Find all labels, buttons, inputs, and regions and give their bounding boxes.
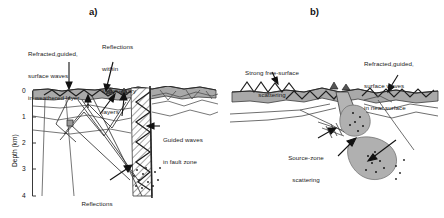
panel-a-id: a) <box>89 6 97 17</box>
guided-waves-line1: Guided waves <box>163 136 203 143</box>
source-zone-scattering-label: Source-zone scattering <box>270 140 342 198</box>
depth-tick-4: 4 <box>22 192 26 199</box>
source-box-marker <box>67 120 73 126</box>
deep-crust-reflections-label: Reflections from deep crust <box>54 186 140 218</box>
sedimentary-reflections-line2: within <box>102 65 136 72</box>
near-surface-waves-line3: in near surface <box>364 104 414 111</box>
weathered-layer-label-line3: in weathered layer <box>28 94 79 101</box>
weathered-layer-label-line1: Refracted,guided, <box>28 50 79 57</box>
panel-b-id: b) <box>310 6 319 17</box>
free-surface-scattering-line1: Strong free-surface <box>230 69 314 76</box>
sedimentary-reflections-line4: layers <box>102 108 136 115</box>
depth-tick-0: 0 <box>22 87 26 94</box>
sedimentary-reflections-line3: sedimentary <box>102 87 136 94</box>
near-surface-waves-label: Refracted,guided, surface waves in near … <box>364 46 414 125</box>
receiver-triangles-b <box>330 82 350 90</box>
depth-tick-3: 3 <box>22 165 26 172</box>
weathered-layer-label-line2: surface waves <box>28 72 79 79</box>
guided-waves-label: Guided waves in fault zone <box>163 122 203 180</box>
source-zone-scattering-line1: Source-zone <box>270 154 342 161</box>
depth-tick-2: 2 <box>22 139 26 146</box>
source-zone-scattering-line2: scattering <box>270 176 342 183</box>
near-surface-waves-line1: Refracted,guided, <box>364 60 414 67</box>
near-surface-waves-line2: surface waves <box>364 82 414 89</box>
depth-tick-1: 1 <box>22 113 26 120</box>
free-surface-scattering-label: Strong free-surface scattering <box>230 55 314 113</box>
sedimentary-reflections-label: Reflections within sedimentary layers <box>102 29 136 130</box>
weathered-layer-label: Refracted,guided, surface waves in weath… <box>28 36 79 115</box>
deep-crust-reflections-line1: Reflections <box>54 200 140 207</box>
figure-canvas: a) b) Refracted,guided, surface waves in… <box>0 0 444 218</box>
sedimentary-reflections-line1: Reflections <box>102 43 136 50</box>
guided-waves-line2: in fault zone <box>163 158 203 165</box>
free-surface-scattering-line2: scattering <box>230 91 314 98</box>
depth-axis-title: Depth (km) <box>11 134 18 167</box>
